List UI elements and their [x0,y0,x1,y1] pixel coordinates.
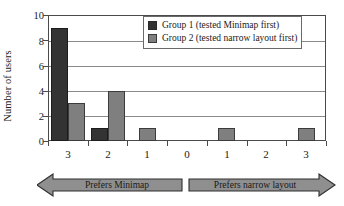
x-tick-label-3-right: 3 [286,148,326,160]
y-axis-title: Number of users [2,38,18,134]
preference-band-narrow-layout: Prefers narrow layout [188,173,336,197]
bar-group2-cat-1-right[interactable] [218,128,235,141]
preference-label-narrow-layout: Prefers narrow layout [214,180,296,190]
x-tick-label-1-right: 1 [207,148,247,160]
bar-group-2-left [88,15,128,141]
x-tick-label-1-left: 1 [127,148,167,160]
legend-item-group1[interactable]: Group 1 (tested Minimap first) [148,19,297,32]
legend-swatch-group1-icon [148,21,157,30]
x-tick-label-2-left: 2 [88,148,128,160]
preference-label-minimap: Prefers Minimap [85,180,149,190]
legend-swatch-group2-icon [148,34,157,43]
bar-group2-cat-1-left[interactable] [139,128,156,141]
legend-item-group2[interactable]: Group 2 (tested narrow layout first) [148,32,297,45]
x-tick-mark-4 [207,141,208,146]
legend-label-group2: Group 2 (tested narrow layout first) [162,33,297,44]
bar-group2-cat-3-left[interactable] [68,103,85,141]
x-tick-mark-3 [167,141,168,146]
x-tick-mark-7 [326,141,327,146]
y-tick-label-2: 2 [18,112,44,122]
legend-label-group1: Group 1 (tested Minimap first) [162,20,279,31]
x-tick-mark-1 [88,141,89,146]
chart-legend: Group 1 (tested Minimap first) Group 2 (… [143,16,302,49]
bar-group1-cat-3-left[interactable] [51,28,68,141]
y-tick-label-4: 4 [18,87,44,97]
y-tick-label-8: 8 [18,37,44,47]
x-tick-mark-2 [127,141,128,146]
y-tick-label-6: 6 [18,62,44,72]
x-tick-mark-0 [48,141,49,146]
x-tick-label-3-left: 3 [48,148,88,160]
y-tick-label-10: 10 [18,11,44,21]
y-tick-label-0: 0 [18,137,44,147]
x-tick-label-0: 0 [167,148,207,160]
x-tick-label-2-right: 2 [246,148,286,160]
preference-band-minimap: Prefers Minimap [37,173,183,197]
bar-group-3-left [48,15,88,141]
bar-group2-cat-2-left[interactable] [108,91,125,141]
x-tick-mark-6 [286,141,287,146]
bar-group1-cat-2-left[interactable] [91,128,108,141]
bar-group2-cat-3-right[interactable] [298,128,315,141]
x-tick-mark-5 [247,141,248,146]
